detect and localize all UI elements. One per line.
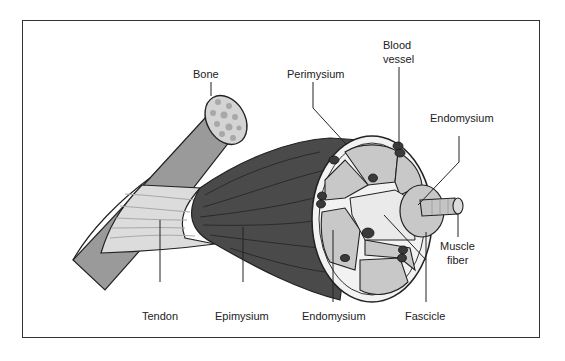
label-epimysium: Epimysium — [215, 310, 269, 323]
label-blood-vessel-line2: vessel — [383, 53, 414, 66]
label-muscle-fiber-line1: Muscle — [440, 240, 475, 253]
label-perimysium: Perimysium — [287, 68, 344, 81]
label-tendon: Tendon — [142, 310, 178, 323]
label-endomysium-top: Endomysium — [430, 112, 494, 125]
label-fascicle: Fascicle — [405, 310, 445, 323]
muscle-anatomy-illustration — [0, 0, 565, 361]
label-blood-vessel-line1: Blood — [383, 39, 411, 52]
label-muscle-fiber-line2: fiber — [447, 254, 468, 267]
label-endomysium-bottom: Endomysium — [302, 310, 366, 323]
label-bone: Bone — [193, 68, 219, 81]
